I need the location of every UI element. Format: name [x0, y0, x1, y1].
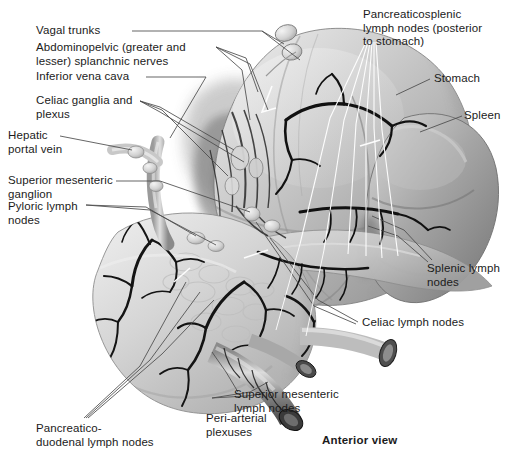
- label-pancreaticosplenic-lymph-nodes: Pancreaticosplenic lymph nodes (posterio…: [363, 8, 482, 49]
- retroperitoneal-shadow: [183, 79, 280, 234]
- label-hepatic-portal-vein: Hepatic portal vein: [8, 129, 62, 156]
- ganglion-bodies: [225, 146, 280, 232]
- celiac-ganglia-plexus: [210, 110, 286, 238]
- label-celiac-lymph-nodes: Celiac lymph nodes: [362, 316, 464, 330]
- label-peri-arterial-plexuses: Peri-arterial plexuses: [206, 412, 267, 439]
- leader-lines: [60, 31, 462, 418]
- label-stomach: Stomach: [434, 72, 480, 86]
- label-splanchnic-nerves: Abdominopelvic (greater and lesser) spla…: [36, 41, 186, 68]
- anatomy-figure: Vagal trunks Abdominopelvic (greater and…: [0, 0, 521, 464]
- label-pyloric-lymph-nodes: Pyloric lymph nodes: [8, 200, 78, 227]
- label-superior-mesenteric-ganglion: Superior mesenteric ganglion: [8, 174, 113, 201]
- label-celiac-ganglia-plexus: Celiac ganglia and plexus: [36, 94, 132, 121]
- label-splenic-lymph-nodes: Splenic lymph nodes: [427, 262, 500, 289]
- white-leader-lines: [300, 42, 398, 258]
- label-vagal-trunks: Vagal trunks: [36, 24, 100, 38]
- label-anterior-view: Anterior view: [322, 434, 397, 448]
- label-inferior-vena-cava: Inferior vena cava: [36, 70, 129, 84]
- inferior-vena-cava: [153, 142, 168, 244]
- white-leader-lines-lower: [276, 244, 324, 336]
- celiac-trunk-branches: [258, 74, 450, 300]
- cardiac-lymph-nodes: [266, 22, 303, 76]
- hepatic-portal-vein: [112, 146, 163, 192]
- cut-vessel-right: [300, 330, 400, 369]
- label-superior-mesenteric-lymph-nodes: Superior mesenteric lymph nodes: [234, 388, 339, 415]
- flow-arrows: [174, 86, 380, 282]
- label-pancreaticoduodenal-lymph-nodes: Pancreatico- duodenal lymph nodes: [36, 422, 154, 449]
- label-spleen: Spleen: [464, 109, 500, 123]
- pyloric-lymph-nodes: [187, 232, 224, 252]
- duodenum-pancreas-head: [92, 210, 340, 414]
